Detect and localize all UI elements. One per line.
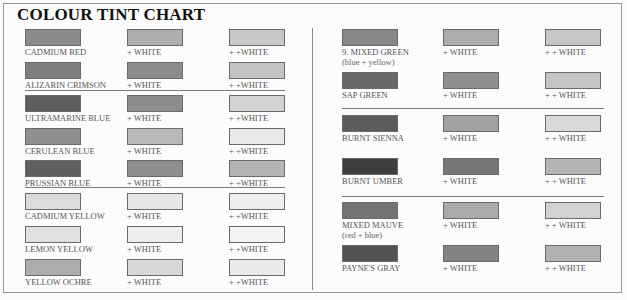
tint-white-cell: + WHITE [127, 259, 183, 287]
tint-label: + +WHITE [229, 244, 285, 254]
color-swatch [342, 245, 398, 262]
tint-label: + WHITE [127, 47, 183, 57]
color-swatch [443, 202, 499, 219]
base-color-swatch-cell: CERULEAN BLUE [25, 128, 95, 156]
color-swatch [545, 72, 601, 89]
tint-double-white-cell: + +WHITE [229, 193, 285, 221]
color-swatch [443, 29, 499, 46]
tint-label: + +WHITE [229, 146, 285, 156]
color-name-label: BURNT SIENNA [342, 133, 404, 143]
color-swatch [229, 128, 285, 145]
row-divider [25, 90, 285, 91]
row-divider [342, 196, 604, 197]
color-swatch [545, 245, 601, 262]
color-swatch [25, 226, 81, 243]
color-swatch [342, 115, 398, 132]
color-swatch [545, 202, 601, 219]
color-swatch [229, 160, 285, 177]
color-swatch [545, 29, 601, 46]
color-name-label: LEMON YELLOW [25, 244, 93, 254]
tint-label: + +WHITE [229, 277, 285, 287]
tint-white-cell: + WHITE [443, 158, 499, 186]
tint-label: + +WHITE [229, 80, 285, 90]
color-swatch [443, 245, 499, 262]
color-name-label: ALIZARIN CRIMSON [25, 80, 106, 90]
tint-white-cell: + WHITE [127, 95, 183, 123]
color-name-label: MIXED MAUVE [342, 220, 403, 230]
color-swatch [127, 62, 183, 79]
base-color-swatch-cell: BURNT UMBER [342, 158, 403, 186]
color-swatch [229, 259, 285, 276]
color-swatch [342, 29, 398, 46]
tint-label: + WHITE [127, 277, 183, 287]
tint-label: + +WHITE [229, 211, 285, 221]
tint-double-white-cell: + + WHITE [545, 115, 601, 143]
color-name-label: 9. MIXED GREEN [342, 47, 409, 57]
tint-white-cell: + WHITE [443, 245, 499, 273]
color-swatch [25, 62, 81, 79]
color-swatch [342, 202, 398, 219]
color-name-label: PRUSSIAN BLUE [25, 178, 90, 188]
tint-label: + WHITE [127, 178, 183, 188]
row-divider [342, 108, 604, 109]
color-swatch [127, 193, 183, 210]
color-swatch [229, 29, 285, 46]
base-color-swatch-cell: ALIZARIN CRIMSON [25, 62, 106, 90]
tint-label: + WHITE [443, 90, 499, 100]
color-name-label: PAYNE'S GRAY [342, 263, 400, 273]
color-swatch [545, 115, 601, 132]
base-color-swatch-cell: SAP GREEN [342, 72, 398, 100]
tint-white-cell: + WHITE [443, 115, 499, 143]
tint-white-cell: + WHITE [127, 29, 183, 57]
color-name-label: ULTRAMARINE BLUE [25, 113, 110, 123]
base-color-swatch-cell: PAYNE'S GRAY [342, 245, 400, 273]
color-name-label: YELLOW OCHRE [25, 277, 92, 287]
tint-label: + + WHITE [545, 176, 601, 186]
tint-label: + WHITE [443, 220, 499, 230]
tint-double-white-cell: + +WHITE [229, 259, 285, 287]
tint-double-white-cell: + +WHITE [229, 62, 285, 90]
color-swatch [342, 72, 398, 89]
color-swatch [127, 259, 183, 276]
color-name-label: SAP GREEN [342, 90, 398, 100]
column-divider [312, 28, 313, 290]
tint-label: + + WHITE [545, 133, 601, 143]
tint-white-cell: + WHITE [127, 193, 183, 221]
tint-double-white-cell: + +WHITE [229, 160, 285, 188]
tint-white-cell: + WHITE [127, 62, 183, 90]
tint-label: + WHITE [443, 263, 499, 273]
tint-double-white-cell: + + WHITE [545, 72, 601, 100]
color-swatch [25, 95, 81, 112]
color-swatch [229, 95, 285, 112]
tint-double-white-cell: + +WHITE [229, 226, 285, 254]
color-swatch [545, 158, 601, 175]
tint-label: + WHITE [443, 176, 499, 186]
tint-label: + WHITE [127, 113, 183, 123]
base-color-swatch-cell: LEMON YELLOW [25, 226, 93, 254]
tint-label: + WHITE [443, 47, 499, 57]
base-color-swatch-cell: ULTRAMARINE BLUE [25, 95, 110, 123]
tint-label: + +WHITE [229, 178, 285, 188]
color-swatch [443, 72, 499, 89]
color-swatch [25, 128, 81, 145]
tint-white-cell: + WHITE [127, 128, 183, 156]
color-swatch [443, 115, 499, 132]
tint-white-cell: + WHITE [443, 29, 499, 57]
color-swatch [25, 29, 81, 46]
color-mix-note: (blue + yellow) [342, 57, 409, 67]
tint-label: + + WHITE [545, 90, 601, 100]
base-color-swatch-cell: MIXED MAUVE(red + blue) [342, 202, 403, 240]
color-swatch [25, 193, 81, 210]
color-swatch [127, 29, 183, 46]
tint-double-white-cell: + +WHITE [229, 128, 285, 156]
tint-double-white-cell: + +WHITE [229, 29, 285, 57]
tint-label: + +WHITE [229, 47, 285, 57]
base-color-swatch-cell: 9. MIXED GREEN(blue + yellow) [342, 29, 409, 67]
color-swatch [229, 226, 285, 243]
tint-label: + + WHITE [545, 47, 601, 57]
color-swatch [25, 259, 81, 276]
tint-label: + + WHITE [545, 220, 601, 230]
color-swatch [443, 158, 499, 175]
tint-label: + WHITE [443, 133, 499, 143]
color-swatch [127, 128, 183, 145]
